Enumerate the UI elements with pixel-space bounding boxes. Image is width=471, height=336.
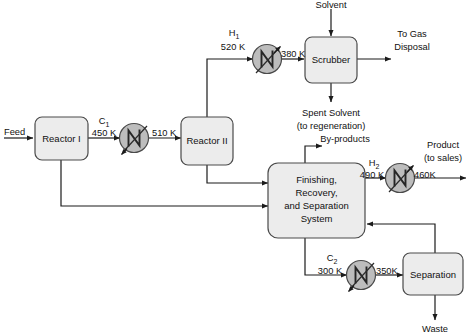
label-product-line2: (to sales) (424, 153, 462, 163)
finishing-label-line3: and Separation (284, 200, 348, 211)
label-byproducts: By-products (320, 134, 370, 144)
label-c1-outlet-temp: 510 K (152, 128, 177, 138)
pfd-canvas: Reactor I Reactor II Scrubber Separation… (0, 0, 471, 336)
flow-reactor2-to-finishing (207, 165, 268, 183)
label-spent-solvent-line2: (to regeneration) (297, 121, 366, 131)
label-to-gas-line1: To Gas (397, 29, 427, 39)
label-h1-inlet-temp: 520 K (221, 42, 246, 52)
label-h2-tag: H2 (369, 158, 380, 170)
unit-reactor2[interactable]: Reactor II (181, 117, 233, 165)
label-h2-inlet-temp: 490 K (360, 170, 385, 180)
unit-separation[interactable]: Separation (403, 253, 463, 295)
unit-reactor2-label: Reactor II (186, 135, 227, 146)
label-c2-tag: C2 (327, 253, 338, 265)
finishing-label-line2: Recovery, (295, 187, 337, 198)
finishing-label-line1: Finishing, (296, 174, 337, 185)
label-h1-tag: H1 (229, 28, 240, 40)
label-spent-solvent-line1: Spent Solvent (302, 108, 360, 118)
flow-separation-recycle-to-finishing (367, 224, 435, 253)
exchanger-h2[interactable] (386, 164, 415, 193)
label-c1-tag: C1 (99, 116, 110, 128)
label-to-gas-line2: Disposal (394, 42, 430, 52)
exchanger-h1[interactable] (253, 45, 282, 74)
flow-finishing-to-byproducts (305, 146, 322, 163)
label-solvent: Solvent (315, 0, 346, 10)
unit-reactor1[interactable]: Reactor I (35, 117, 88, 160)
exchanger-c2[interactable] (347, 261, 376, 292)
label-h2-outlet-temp: 460K (414, 170, 437, 180)
process-flow-diagram: Reactor I Reactor II Scrubber Separation… (0, 0, 471, 336)
label-h1-outlet-temp: 380 K (281, 49, 306, 59)
flow-reactor2-to-h1 (207, 59, 253, 117)
unit-finishing-recovery-separation-system[interactable]: Finishing, Recovery, and Separation Syst… (268, 163, 365, 238)
unit-scrubber[interactable]: Scrubber (305, 37, 357, 83)
label-c1-inlet-temp: 450 K (92, 128, 117, 138)
label-c2-outlet-temp: 350K (376, 266, 399, 276)
label-c2-inlet-temp: 300 K (318, 266, 343, 276)
finishing-label-line4: System (301, 213, 333, 224)
label-feed: Feed (4, 127, 25, 137)
unit-separation-label: Separation (410, 269, 456, 280)
label-waste: Waste (422, 324, 448, 334)
unit-reactor1-label: Reactor I (42, 133, 81, 144)
exchanger-c1[interactable] (120, 124, 149, 155)
unit-scrubber-label: Scrubber (312, 54, 351, 65)
label-product-line1: Product (427, 140, 459, 150)
